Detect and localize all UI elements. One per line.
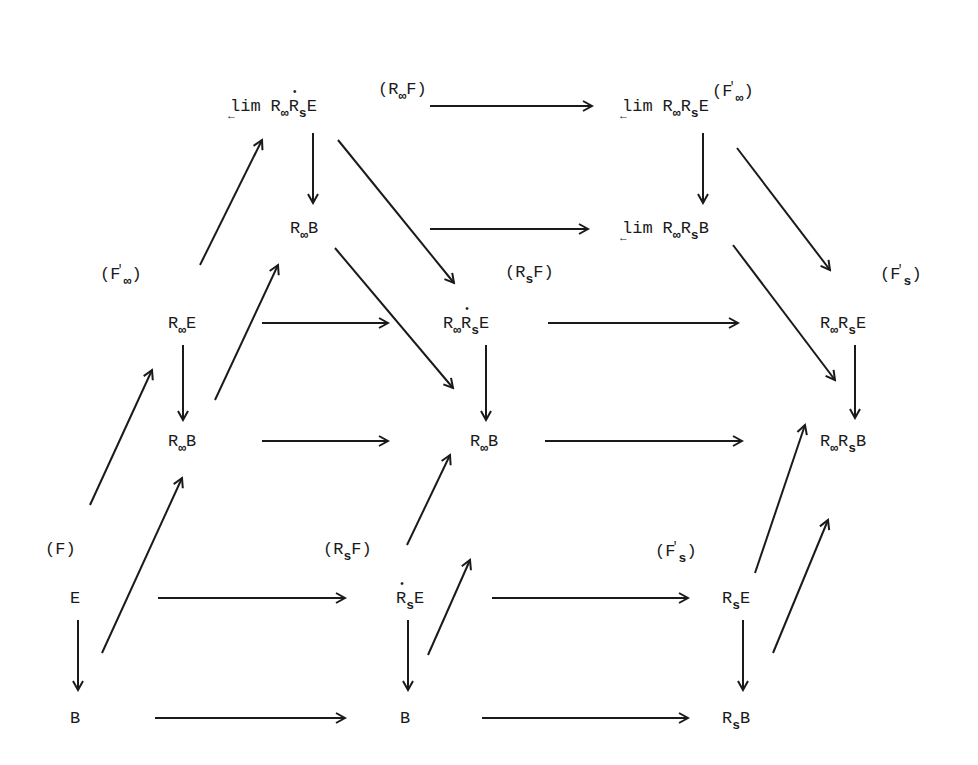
node-RinfE: R∞E [168, 315, 196, 337]
arrow-RinfB_left-to-RinfB_top [215, 265, 278, 400]
node-E: E [70, 590, 80, 607]
arrow-RinfB_top-to-RinfB_mid [335, 248, 453, 388]
arrow-B2-to-RinfB_mid [428, 560, 470, 655]
node-RinfRsE: R∞RsE [820, 315, 866, 337]
node-B2: B [400, 710, 410, 727]
node-RinfRsdotE: R∞RsE [443, 315, 489, 337]
node-RsE: RsE [722, 590, 750, 612]
arrow-limRinfRsdotE-to-RinfRsdotE [338, 140, 454, 283]
label-Fs-prime-mid: (F's) [880, 263, 922, 289]
node-RinfB-mid: R∞B [470, 433, 498, 455]
arrow-RsdotE-to-RinfRsdotE [407, 455, 450, 545]
label-Finf-prime: (F'∞) [100, 263, 142, 289]
label-Finf-prime-top: (F'∞) [712, 80, 754, 106]
node-RinfB-left: R∞B [168, 433, 196, 455]
node-limRinfRsE: limR∞RsE [622, 98, 709, 120]
node-limRinfRsdotE: limR∞RsE [230, 98, 317, 120]
arrow-limRinfRsB-to-RinfRsB [733, 245, 835, 380]
node-RsdotE: RsE [396, 590, 424, 612]
node-B: B [70, 710, 80, 727]
arrows-layer [0, 0, 978, 765]
node-RsB: RsB [722, 710, 750, 732]
label-F: (F) [45, 540, 76, 559]
node-limRinfRsB: limR∞RsB [622, 220, 709, 242]
arrow-RinfE-to-limRinfRsdotE [200, 140, 262, 265]
arrow-B-to-RinfB_left [102, 478, 182, 653]
label-Fs-prime-front: (F's) [655, 540, 697, 566]
label-RsF-front: (RsF) [323, 540, 372, 564]
node-RinfB-top: R∞B [290, 220, 318, 242]
arrow-RsE-to-RinfRsE [755, 425, 805, 573]
arrow-RsB-to-RinfRsB [773, 520, 828, 653]
label-RinfF: (R∞F) [378, 80, 427, 104]
arrow-E-to-RinfE [90, 370, 152, 505]
arrow-limRinfRsE-to-RinfRsE [737, 148, 830, 270]
label-RsF-mid: (RsF) [505, 263, 554, 287]
node-RinfRsB: R∞RsB [820, 433, 866, 455]
